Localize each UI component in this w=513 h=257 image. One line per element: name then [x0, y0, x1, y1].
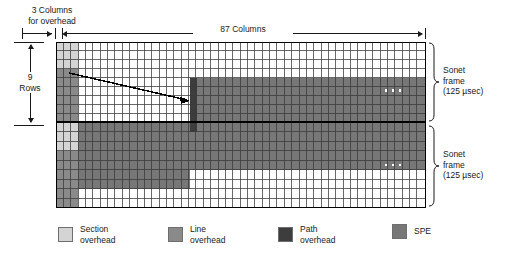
frame-2 [56, 122, 426, 208]
ellipsis-frame-1 [385, 89, 402, 92]
rows-dim-tick-bottom [14, 125, 44, 126]
overhead-dim-tick-left [22, 28, 23, 39]
legend-item-line-overhead: Line overhead [168, 224, 225, 245]
legend-swatch-section-overhead [58, 227, 73, 242]
rows-arrow-up [28, 44, 34, 49]
frame-2-label: Sonet frame (125 µsec) [443, 149, 483, 181]
ellipsis-frame-2 [385, 164, 402, 167]
legend-item-section-overhead: Section overhead [58, 224, 115, 245]
data-columns-arrow-right [418, 31, 423, 37]
data-columns-label: 87 Columns [193, 24, 293, 35]
overhead-dim-arrow-right [47, 31, 52, 37]
rows-label: 9 Rows [8, 72, 52, 93]
sonet-frame-figure: 3 Columns for overhead 87 Columns 9 Rows [0, 0, 513, 257]
legend-label-section-overhead: Section overhead [80, 224, 115, 245]
overhead-columns-label: 3 Columns for overhead [10, 5, 94, 26]
legend-label-path-overhead: Path overhead [300, 224, 335, 245]
grid-svg [56, 42, 426, 208]
data-columns-tick-left [62, 28, 63, 39]
frame-braces [428, 40, 440, 210]
overhead-dim-tick-right [55, 28, 56, 39]
rows-arrow-down [28, 118, 34, 123]
rows-dim-tick-top [14, 42, 44, 43]
legend-label-spe: SPE [414, 226, 431, 237]
legend-swatch-line-overhead [168, 227, 183, 242]
frame-1-label: Sonet frame (125 µsec) [443, 65, 483, 97]
data-columns-tick-right [425, 28, 426, 39]
legend-item-spe: SPE [392, 224, 431, 239]
legend-label-line-overhead: Line overhead [190, 224, 225, 245]
legend-swatch-spe [392, 224, 407, 239]
sonet-grid [56, 42, 426, 208]
legend-item-path-overhead: Path overhead [278, 224, 335, 245]
legend-swatch-path-overhead [278, 227, 293, 242]
